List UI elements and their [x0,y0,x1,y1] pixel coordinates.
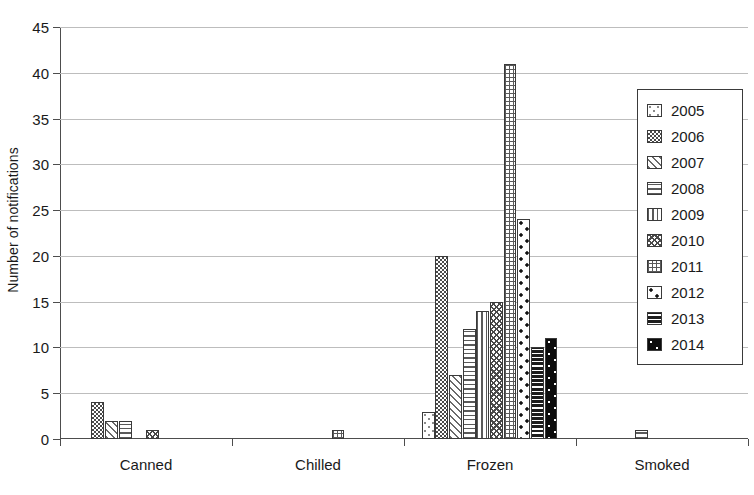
y-axis-title: Number of notifications [2,0,24,440]
y-axis-tick [53,119,60,120]
bar-frozen-2007 [449,375,462,439]
legend-item-label: 2011 [671,259,703,274]
y-axis-tick-label: 30 [32,156,49,173]
legend-item-label: 2012 [671,285,704,300]
legend-item-2012[interactable]: 2012 [647,279,734,305]
legend: 2005200620072008200920102011201220132014 [637,89,743,365]
legend-item-2010[interactable]: 2010 [647,227,734,253]
bar-frozen-2012 [517,219,530,439]
y-axis-tick [53,73,60,74]
y-axis-tick [53,210,60,211]
bar-smoked-2008 [635,430,648,439]
x-axis-tick [748,439,749,446]
x-axis-tick [576,439,577,446]
legend-item-label: 2010 [671,233,704,248]
legend-swatch-icon [647,260,662,273]
legend-item-2011[interactable]: 2011 [647,253,734,279]
legend-item-2006[interactable]: 2006 [647,123,734,149]
legend-item-label: 2013 [671,311,704,326]
legend-item-label: 2006 [671,129,704,144]
y-axis-tick [53,27,60,28]
y-axis-tick-label: 20 [32,247,49,264]
legend-swatch-icon [647,234,662,247]
bar-frozen-2006 [435,256,448,439]
y-axis-tick [53,256,60,257]
x-axis-tick [404,439,405,446]
gridline [60,393,748,394]
legend-swatch-icon [647,312,662,325]
bar-frozen-2010 [490,302,503,439]
legend-item-2013[interactable]: 2013 [647,305,734,331]
legend-item-label: 2005 [671,103,704,118]
x-axis-tick [60,439,61,446]
bar-canned-2007 [105,421,118,439]
legend-item-2008[interactable]: 2008 [647,175,734,201]
x-axis-category-label: Frozen [467,456,514,473]
bar-frozen-2011 [504,64,517,439]
bar-frozen-2009 [476,311,489,439]
bar-frozen-2008 [463,329,476,439]
x-axis-category-label: Smoked [634,456,689,473]
legend-swatch-icon [647,286,662,299]
legend-swatch-icon [647,156,662,169]
y-axis-line [60,27,61,439]
legend-item-2009[interactable]: 2009 [647,201,734,227]
y-axis-tick-label: 0 [41,431,49,448]
y-axis-tick-label: 5 [41,385,49,402]
y-axis-tick [53,439,60,440]
y-axis-tick-label: 45 [32,19,49,36]
bar-chilled-2011 [332,430,345,439]
legend-item-label: 2007 [671,155,704,170]
x-axis-tick [232,439,233,446]
x-axis-category-label: Canned [120,456,173,473]
legend-swatch-icon [647,130,662,143]
y-axis-tick-label: 15 [32,293,49,310]
gridline [60,27,748,28]
bar-chart: Number of notifications 0510152025303540… [0,0,754,495]
legend-item-label: 2008 [671,181,704,196]
y-axis-tick [53,302,60,303]
y-axis-title-label: Number of notifications [5,147,21,292]
y-axis-tick-label: 40 [32,64,49,81]
bar-frozen-2005 [422,412,435,439]
y-axis-tick-label: 10 [32,339,49,356]
y-axis-tick [53,393,60,394]
bar-canned-2006 [91,402,104,439]
legend-swatch-icon [647,338,662,351]
bar-canned-2010 [146,430,159,439]
y-axis-tick-label: 25 [32,202,49,219]
legend-item-2007[interactable]: 2007 [647,149,734,175]
y-axis-tick-label: 35 [32,110,49,127]
x-axis-category-label: Chilled [295,456,341,473]
bar-canned-2008 [119,421,132,439]
y-axis-tick [53,164,60,165]
gridline [60,73,748,74]
legend-swatch-icon [647,104,662,117]
y-axis-tick [53,347,60,348]
legend-swatch-icon [647,208,662,221]
legend-item-label: 2009 [671,207,704,222]
legend-swatch-icon [647,182,662,195]
legend-item-label: 2014 [671,337,704,352]
legend-item-2014[interactable]: 2014 [647,331,734,357]
bar-frozen-2013 [531,347,544,439]
bar-frozen-2014 [545,338,558,439]
legend-item-2005[interactable]: 2005 [647,97,734,123]
